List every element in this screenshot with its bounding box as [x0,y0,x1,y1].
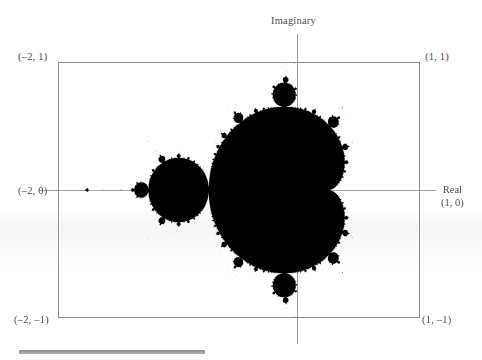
corner-label-bottom-right: (1, –1) [422,313,451,326]
corner-label-top-right: (1, 1) [425,50,449,63]
real-axis-label-group: Real (1, 0) [441,183,464,209]
bottom-horizontal-rule [19,350,205,354]
mandelbrot-figure: Imaginary (–2, 1) (1, 1) (–2, 0) (–2, –1… [0,0,482,360]
real-axis-label: Real [441,183,464,196]
plot-frame-border [58,62,420,318]
corner-label-top-left: (–2, 1) [18,50,47,63]
corner-label-middle-left: (–2, 0) [18,184,47,197]
corner-label-middle-right: (1, 0) [441,196,464,209]
imaginary-axis-label: Imaginary [271,14,316,27]
corner-label-bottom-left: (–2, –1) [14,313,49,326]
